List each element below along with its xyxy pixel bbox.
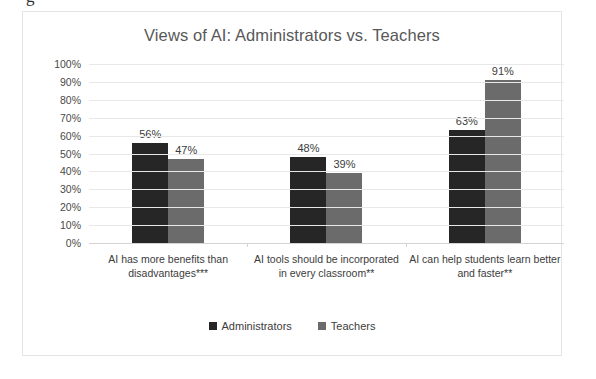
category-label: AI has more benefits than disadvantages*… [89, 252, 247, 280]
y-axis-tick-label: 80% [23, 94, 85, 106]
gridline [89, 189, 564, 190]
bar-value-label: 56% [139, 128, 161, 140]
legend-swatch-icon [318, 322, 326, 330]
y-axis: 100%90%80%70%60%50%40%30%20%10%0% [23, 64, 85, 243]
chart-legend: AdministratorsTeachers [23, 320, 561, 332]
gridline [89, 225, 564, 226]
gridline [89, 154, 564, 155]
gridline [89, 136, 564, 137]
legend-label: Teachers [331, 320, 376, 332]
chart-title: Views of AI: Administrators vs. Teachers [23, 26, 561, 45]
y-axis-tick-label: 40% [23, 165, 85, 177]
bar-value-label: 91% [492, 65, 514, 77]
y-axis-tick-label: 60% [23, 130, 85, 142]
legend-swatch-icon [209, 322, 217, 330]
bar-value-label: 39% [333, 158, 355, 170]
bar-administrators[interactable] [132, 143, 168, 243]
axis-baseline [89, 243, 564, 244]
legend-item-administrators[interactable]: Administrators [209, 320, 292, 332]
plot-area: 56%47%48%39%63%91% [89, 64, 564, 243]
page-text-fragment: g [26, 0, 35, 7]
category-axis-labels: AI has more benefits than disadvantages*… [89, 252, 564, 280]
y-axis-tick-label: 90% [23, 76, 85, 88]
y-axis-tick-label: 70% [23, 112, 85, 124]
gridline [89, 171, 564, 172]
y-axis-tick-label: 10% [23, 219, 85, 231]
bar-teachers[interactable] [485, 80, 521, 243]
bar-administrators[interactable] [290, 157, 326, 243]
y-axis-tick-label: 30% [23, 183, 85, 195]
gridline [89, 82, 564, 83]
legend-label: Administrators [222, 320, 292, 332]
category-label: AI tools should be incorporated in every… [247, 252, 405, 280]
gridline [89, 100, 564, 101]
gridline [89, 64, 564, 65]
y-axis-tick-label: 100% [23, 58, 85, 70]
bar-value-label: 48% [297, 142, 319, 154]
y-axis-tick-label: 20% [23, 201, 85, 213]
y-axis-tick-label: 50% [23, 148, 85, 160]
y-axis-tick-label: 0% [23, 237, 85, 249]
legend-item-teachers[interactable]: Teachers [318, 320, 376, 332]
gridline [89, 207, 564, 208]
gridline [89, 118, 564, 119]
plot-wrapper: 100%90%80%70%60%50%40%30%20%10%0% 56%47%… [23, 64, 563, 249]
category-label: AI can help students learn better and fa… [406, 252, 564, 280]
chart-container: Views of AI: Administrators vs. Teachers… [22, 11, 562, 356]
